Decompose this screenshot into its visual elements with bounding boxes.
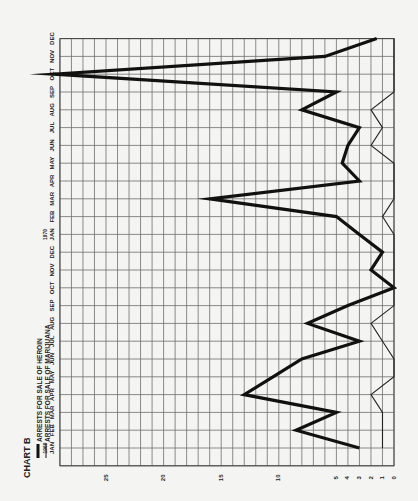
month-label: SEP bbox=[49, 86, 55, 98]
heroin-series-line bbox=[54, 39, 394, 448]
value-tick-label: 5 bbox=[333, 475, 339, 479]
year-label: 1970 bbox=[42, 229, 48, 240]
month-label: JAN bbox=[49, 442, 55, 454]
month-label: NOV bbox=[49, 50, 55, 63]
month-label: JUN bbox=[49, 139, 55, 151]
chart-legend: CHART BARRESTS FOR SALE OF HEROINARRESTS… bbox=[22, 324, 51, 478]
value-tick-label: 25 bbox=[103, 474, 109, 481]
month-label: OCT bbox=[49, 281, 55, 294]
month-label: DEC bbox=[49, 32, 55, 45]
month-label: MAY bbox=[49, 157, 55, 170]
month-label: DEC bbox=[49, 245, 55, 258]
month-label: JAN bbox=[49, 228, 55, 240]
month-label: MAR bbox=[49, 191, 55, 205]
value-tick-label: 15 bbox=[218, 474, 224, 481]
line-chart: 01234510152025 JANFEBMARAPRMAYJUNJULAUGS… bbox=[0, 0, 418, 501]
month-label: SEP bbox=[49, 300, 55, 312]
legend-title: CHART B bbox=[22, 437, 32, 478]
month-label: APR bbox=[49, 174, 55, 187]
month-label: FEB bbox=[49, 210, 55, 223]
value-tick-label: 10 bbox=[275, 474, 281, 481]
value-tick-label: 3 bbox=[356, 475, 362, 479]
value-tick-label: 2 bbox=[368, 475, 374, 479]
legend-item-label: ARRESTS FOR SALE OF MARIJUANA bbox=[44, 324, 51, 442]
legend-item-label: ARRESTS FOR SALE OF HEROIN bbox=[36, 338, 43, 442]
month-label: JUL bbox=[49, 122, 55, 134]
value-axis-ticks: 01234510152025 bbox=[103, 474, 397, 481]
chart-grid bbox=[60, 39, 394, 466]
year-label: 1969 bbox=[42, 442, 48, 453]
value-tick-label: 20 bbox=[160, 474, 166, 481]
chart-stage: 01234510152025 JANFEBMARAPRMAYJUNJULAUGS… bbox=[0, 0, 418, 501]
month-label: AUG bbox=[49, 103, 55, 117]
value-tick-label: 1 bbox=[379, 475, 385, 479]
month-label: NOV bbox=[49, 263, 55, 276]
chart-series bbox=[54, 39, 394, 448]
value-tick-label: 0 bbox=[391, 475, 397, 479]
value-tick-label: 4 bbox=[344, 475, 350, 479]
